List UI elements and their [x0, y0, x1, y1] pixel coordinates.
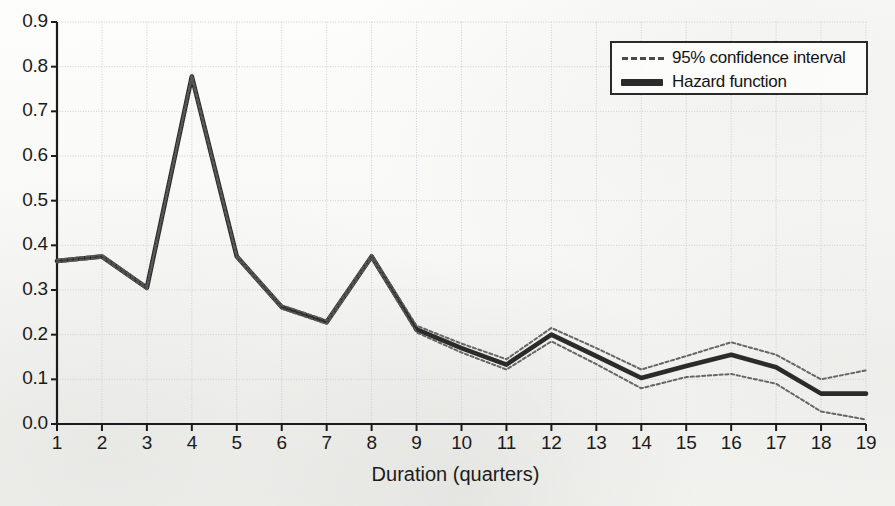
y-tick-label: 0.5	[2, 189, 48, 211]
x-axis-title: Duration (quarters)	[0, 463, 895, 486]
x-tick-label: 7	[312, 432, 342, 454]
hazard-function-chart: 0.00.10.20.30.40.50.60.70.80.9 123456789…	[0, 0, 895, 506]
x-tick-label: 9	[402, 432, 432, 454]
y-tick-label: 0.2	[2, 323, 48, 345]
y-tick-label: 0.4	[2, 233, 48, 255]
legend-item-hazard-function: Hazard function	[620, 70, 866, 94]
x-tick-label: 4	[177, 432, 207, 454]
y-tick-label: 0.8	[2, 55, 48, 77]
y-tick-label: 0.3	[2, 278, 48, 300]
x-tick-label: 13	[581, 432, 611, 454]
x-tick-label: 15	[671, 432, 701, 454]
legend-item-confidence-interval: 95% confidence interval	[620, 46, 866, 70]
y-tick-label: 0.1	[2, 367, 48, 389]
legend-label-hazard-function: Hazard function	[672, 72, 787, 92]
x-tick-label: 18	[806, 432, 836, 454]
x-tick-label: 3	[132, 432, 162, 454]
y-tick-label: 0.6	[2, 144, 48, 166]
x-tick-label: 19	[851, 432, 881, 454]
x-axis-title-text: Duration (quarters)	[372, 463, 540, 485]
x-tick-label: 6	[267, 432, 297, 454]
y-tick-label: 0.0	[2, 412, 48, 434]
x-tick-label: 14	[626, 432, 656, 454]
x-tick-label: 10	[447, 432, 477, 454]
x-tick-label: 11	[491, 432, 521, 454]
y-tick-label: 0.9	[2, 10, 48, 32]
x-tick-label: 1	[42, 432, 72, 454]
x-tick-label: 16	[716, 432, 746, 454]
x-tick-label: 8	[357, 432, 387, 454]
legend-label-confidence-interval: 95% confidence interval	[672, 48, 846, 68]
x-tick-label: 12	[536, 432, 566, 454]
y-tick-label: 0.7	[2, 99, 48, 121]
x-tick-label: 17	[761, 432, 791, 454]
dashed-line-icon	[620, 51, 666, 65]
thick-solid-line-icon	[620, 75, 666, 89]
x-tick-label: 2	[87, 432, 117, 454]
chart-legend: 95% confidence interval Hazard function	[610, 41, 868, 95]
x-tick-label: 5	[222, 432, 252, 454]
